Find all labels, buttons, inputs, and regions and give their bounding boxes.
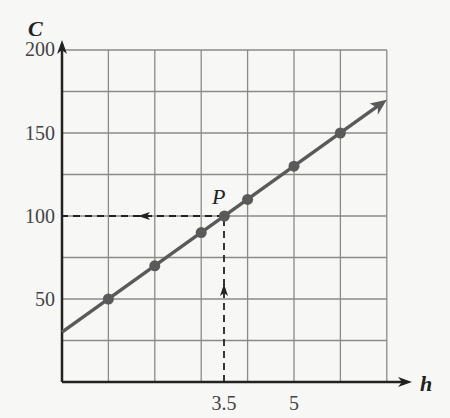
data-point xyxy=(196,227,207,238)
line-arrow-icon xyxy=(370,100,387,115)
data-point xyxy=(219,211,230,222)
data-point xyxy=(103,294,114,305)
data-point xyxy=(289,161,300,172)
data-point xyxy=(149,260,160,271)
point-label: P xyxy=(211,184,225,209)
x-axis-label: h xyxy=(420,371,432,396)
y-tick-100: 100 xyxy=(25,205,55,227)
y-tick-50: 50 xyxy=(35,288,55,310)
data-point xyxy=(335,128,346,139)
y-tick-200: 200 xyxy=(25,38,55,60)
x-tick-5: 5 xyxy=(289,392,299,414)
x-tick-3-5: 3.5 xyxy=(212,392,237,414)
chart: C h P 200 150 100 50 3.5 5 xyxy=(0,0,450,418)
y-tick-150: 150 xyxy=(25,122,55,144)
data-point xyxy=(242,194,253,205)
